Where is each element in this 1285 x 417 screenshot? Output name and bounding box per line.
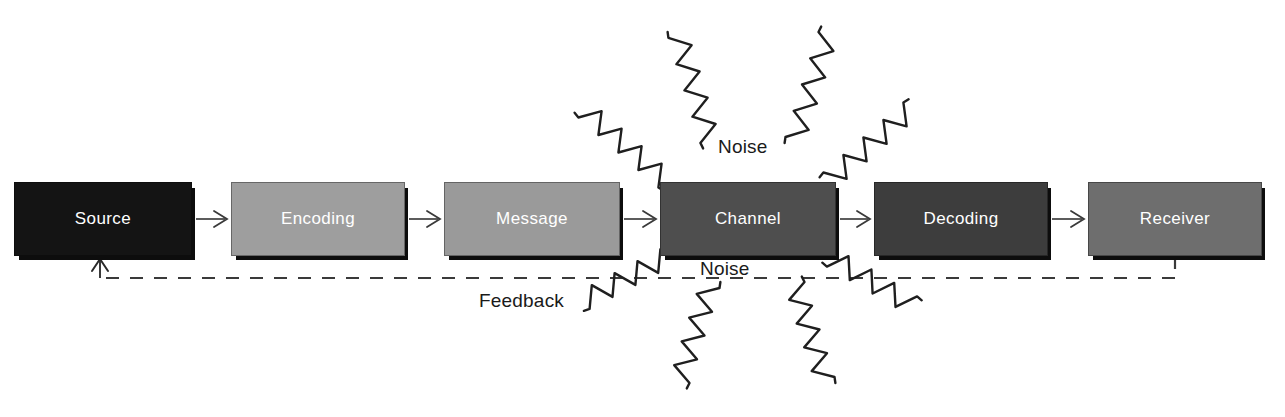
noise-squiggle-top-left bbox=[668, 32, 716, 148]
node-receiver[interactable]: Receiver bbox=[1088, 182, 1262, 256]
noise-squiggle-bottom-right bbox=[789, 277, 835, 383]
node-message-label: Message bbox=[496, 209, 568, 229]
node-source-label: Source bbox=[75, 209, 131, 229]
noise-squiggle-top-far-right bbox=[820, 99, 909, 179]
flow-arrow-decoding-to-receiver bbox=[1052, 211, 1084, 227]
node-decoding[interactable]: Decoding bbox=[874, 182, 1048, 256]
node-encoding-label: Encoding bbox=[281, 209, 355, 229]
noise-squiggle-bottom-left bbox=[674, 282, 720, 388]
feedback-feedback-loop bbox=[92, 256, 1175, 278]
node-channel[interactable]: Channel bbox=[660, 182, 836, 256]
node-source[interactable]: Source bbox=[14, 182, 192, 256]
noise-squiggle-top-far-left bbox=[575, 111, 664, 191]
feedback-label: Feedback bbox=[479, 290, 564, 312]
flow-arrow-encoding-to-message bbox=[409, 211, 440, 227]
flow-arrow-channel-to-decoding bbox=[840, 211, 870, 227]
noise-squiggle-top-right bbox=[785, 27, 834, 143]
noise-label-top: Noise bbox=[718, 136, 768, 158]
noise-label-bottom: Noise bbox=[700, 258, 750, 280]
flow-arrow-source-to-encoding bbox=[196, 211, 227, 227]
feedback-line-layer bbox=[92, 256, 1175, 278]
noise-squiggle-bottom-far-right bbox=[822, 256, 921, 307]
node-receiver-label: Receiver bbox=[1140, 209, 1210, 229]
communication-model-diagram: Source Encoding Message Channel Decoding… bbox=[0, 0, 1285, 417]
node-message[interactable]: Message bbox=[444, 182, 620, 256]
flow-arrow-message-to-channel bbox=[624, 211, 656, 227]
node-channel-label: Channel bbox=[715, 209, 781, 229]
node-decoding-label: Decoding bbox=[923, 209, 998, 229]
node-encoding[interactable]: Encoding bbox=[231, 182, 405, 256]
